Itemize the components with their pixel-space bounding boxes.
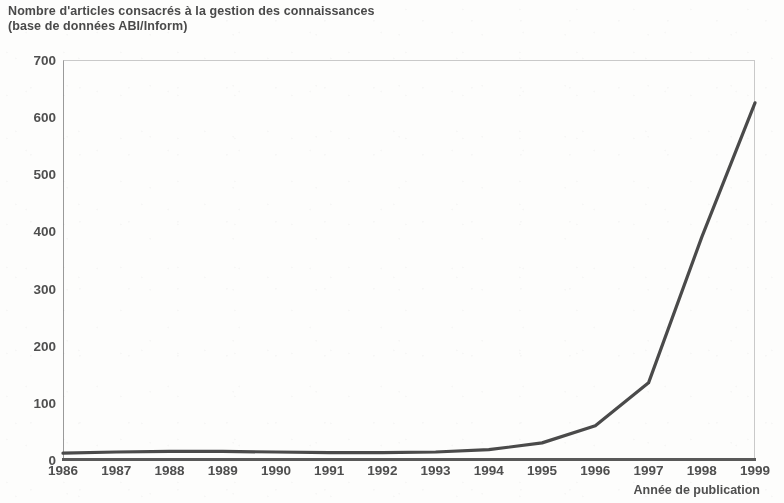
x-axis-title: Année de publication — [634, 483, 760, 497]
y-axis-tick-label: 700 — [4, 53, 56, 68]
y-axis-tick-label: 500 — [4, 167, 56, 182]
chart-title-line-2: (base de données ABI/Inform) — [8, 19, 568, 34]
x-axis-line — [62, 458, 756, 461]
x-axis-tick-label: 1998 — [687, 463, 717, 478]
x-axis-tick-label: 1996 — [580, 463, 610, 478]
x-axis-tick-labels: 1986198719881989199019911992199319941995… — [63, 463, 755, 485]
y-axis-tick-label: 300 — [4, 281, 56, 296]
x-axis-tick-label: 1988 — [154, 463, 184, 478]
chart-page: Nombre d'articles consacrés à la gestion… — [0, 0, 784, 503]
chart-title: Nombre d'articles consacrés à la gestion… — [8, 4, 568, 34]
y-axis-tick-label: 400 — [4, 224, 56, 239]
x-axis-tick-label: 1992 — [367, 463, 397, 478]
y-axis-tick-label: 200 — [4, 338, 56, 353]
x-axis-tick-label: 1997 — [634, 463, 664, 478]
x-axis-tick-label: 1995 — [527, 463, 557, 478]
x-axis-tick-label: 1987 — [101, 463, 131, 478]
x-axis-tick-label: 1999 — [740, 463, 770, 478]
y-axis-tick-label: 100 — [4, 395, 56, 410]
y-axis-tick-labels: 0100200300400500600700 — [0, 60, 56, 460]
x-axis-tick-label: 1994 — [474, 463, 504, 478]
x-axis-tick-label: 1991 — [314, 463, 344, 478]
data-series-line — [63, 60, 755, 460]
series-polyline — [63, 103, 755, 453]
chart-title-line-1: Nombre d'articles consacrés à la gestion… — [8, 4, 568, 19]
x-axis-tick-label: 1989 — [208, 463, 238, 478]
x-axis-tick-label: 1993 — [421, 463, 451, 478]
plot-area — [63, 60, 755, 460]
x-axis-tick-label: 1986 — [48, 463, 78, 478]
y-axis-tick-label: 600 — [4, 110, 56, 125]
x-axis-tick-label: 1990 — [261, 463, 291, 478]
